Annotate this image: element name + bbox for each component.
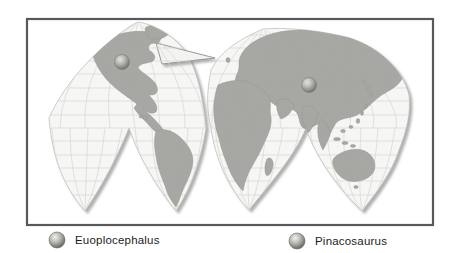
sphere-marker-icon: [289, 233, 305, 249]
legend: Euoplocephalus Pinacosaurus: [49, 232, 387, 249]
marker-pinacosaurus: [302, 78, 317, 93]
legend-item-pinacosaurus: Pinacosaurus: [289, 233, 387, 249]
legend-label-pinacosaurus: Pinacosaurus: [315, 235, 387, 247]
marker-euoplocephalus: [115, 55, 130, 70]
sphere-marker-icon: [49, 232, 65, 248]
legend-item-euoplocephalus: Euoplocephalus: [49, 232, 160, 248]
world-map-svg: Euoplocephalus Pinacosaurus: [0, 0, 454, 253]
map-figure: Euoplocephalus Pinacosaurus: [0, 0, 454, 253]
legend-label-euoplocephalus: Euoplocephalus: [75, 234, 160, 246]
